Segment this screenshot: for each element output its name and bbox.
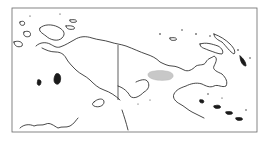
island-se-1 (214, 105, 221, 108)
island-aru (54, 73, 61, 84)
island-se-2 (226, 112, 233, 115)
island-se-3 (236, 118, 243, 121)
map (0, 0, 267, 144)
highlighted-area (148, 71, 173, 81)
island-kai (37, 80, 41, 85)
map-frame-border (12, 8, 257, 132)
island-se-4 (200, 100, 204, 103)
